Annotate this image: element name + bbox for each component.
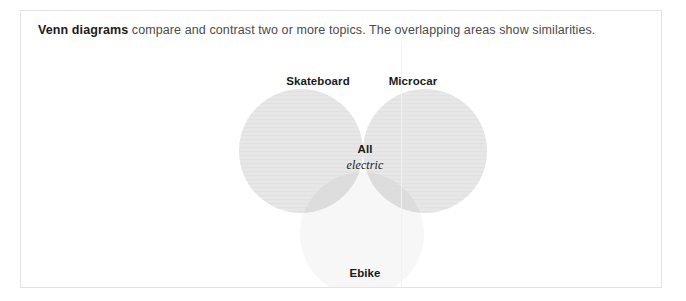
venn-label-electric: electric xyxy=(347,158,384,173)
venn-label-ebike: Ebike xyxy=(349,267,380,279)
venn-circles-svg xyxy=(21,11,661,287)
venn-label-microcar: Microcar xyxy=(389,75,438,87)
venn-diagram: Skateboard Microcar Ebike All electric xyxy=(21,11,661,287)
venn-label-all: All xyxy=(358,143,373,155)
venn-diagram-card: Venn diagrams compare and contrast two o… xyxy=(20,10,662,288)
venn-label-skateboard: Skateboard xyxy=(286,75,350,87)
